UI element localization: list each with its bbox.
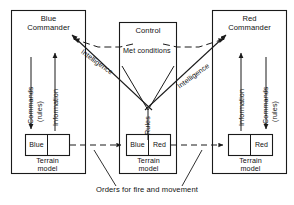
red-commands-text-line2: (rules) — [270, 101, 279, 122]
control-terrain-caption: Terrain model — [126, 157, 171, 174]
control-title-text: Control — [135, 26, 160, 35]
blue-commander-panel — [12, 11, 86, 174]
diagram-caption: Orders for fire and movement — [77, 186, 217, 194]
control-terrain-cell-right-text: Red — [153, 141, 166, 148]
control-terrain-cell-left: Blue — [127, 141, 148, 149]
caption-leader-right — [182, 150, 202, 186]
diagram-caption-text: Orders for fire and movement — [96, 185, 198, 194]
blue-information-text: Information — [51, 89, 60, 126]
blue-terrain-cell-left-text: Blue — [29, 141, 43, 148]
control-terrain-cell-right: Red — [149, 141, 170, 149]
control-y-left-branch — [122, 66, 148, 110]
red-terrain-caption: Terrain model — [228, 157, 273, 174]
met-conditions-text: Met conditions — [123, 46, 171, 55]
caption-leader-left — [94, 150, 116, 186]
control-rules-label: Rules — [144, 116, 152, 135]
red-commander-panel — [213, 11, 287, 174]
diagram-canvas: Blue Commander Control Red Commander Met… — [0, 0, 294, 205]
red-terrain-caption-line2: model — [228, 165, 273, 173]
blue-commands-text-line2: (rules) — [35, 101, 44, 122]
red-commander-title-line1: Red — [212, 14, 287, 23]
blue-commands-text-line1: Commands — [26, 86, 35, 124]
blue-commands-rules-label: (rules) — [36, 101, 44, 122]
red-commander-title: Red Commander — [212, 14, 287, 32]
blue-terrain-caption: Terrain model — [25, 157, 70, 174]
red-commander-title-line2: Commander — [212, 23, 287, 32]
blue-commander-title-line2: Commander — [11, 23, 86, 32]
red-terrain-cell-right-text: Red — [255, 141, 268, 148]
blue-commander-title: Blue Commander — [11, 14, 86, 32]
blue-information-label: Information — [52, 89, 60, 126]
met-conditions-label: Met conditions — [123, 47, 171, 55]
blue-commander-title-line1: Blue — [11, 14, 86, 23]
red-information-label: Information — [238, 89, 246, 126]
red-terrain-cell-right: Red — [251, 141, 272, 149]
red-commands-text-line1: Commands — [261, 86, 270, 124]
red-information-text: Information — [237, 89, 246, 126]
blue-terrain-caption-line2: model — [25, 165, 70, 173]
control-title: Control — [120, 26, 176, 35]
control-terrain-caption-line2: model — [126, 165, 171, 173]
red-commands-rules-label: (rules) — [271, 101, 279, 122]
control-rules-text: Rules — [143, 116, 152, 135]
control-terrain-cell-left-text: Blue — [130, 141, 144, 148]
blue-terrain-cell-left: Blue — [26, 141, 47, 149]
